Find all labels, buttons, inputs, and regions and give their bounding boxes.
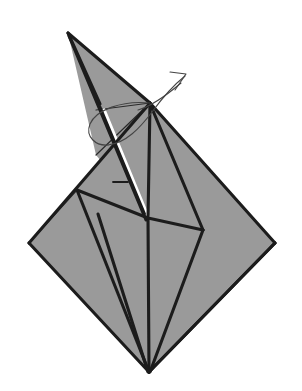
edge-top-to-center (148, 103, 150, 218)
origami-illustration (0, 0, 302, 391)
edge-center-spine (148, 218, 149, 372)
origami-diagram-root (0, 0, 302, 391)
